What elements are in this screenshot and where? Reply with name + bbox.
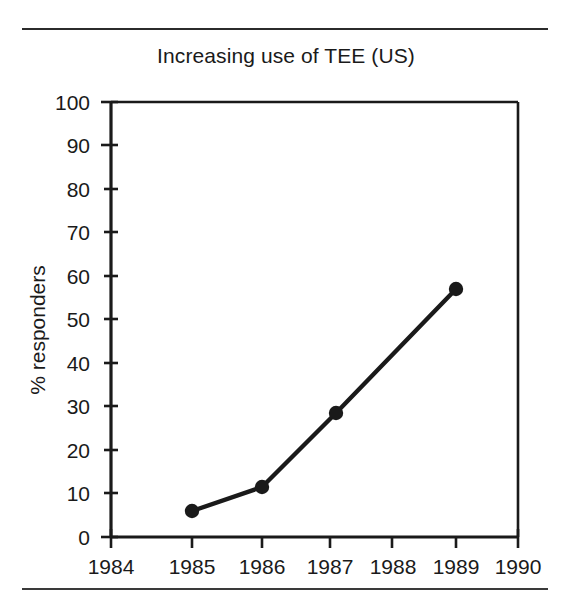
data-point-markers [185, 282, 463, 518]
data-point [255, 480, 269, 494]
data-point [185, 504, 199, 518]
data-point [329, 406, 343, 420]
plot-area [0, 0, 572, 603]
data-point [449, 282, 463, 296]
figure-container: Increasing use of TEE (US) % responders … [0, 0, 572, 603]
data-line-responders [192, 289, 456, 511]
axis-frame [111, 102, 518, 537]
